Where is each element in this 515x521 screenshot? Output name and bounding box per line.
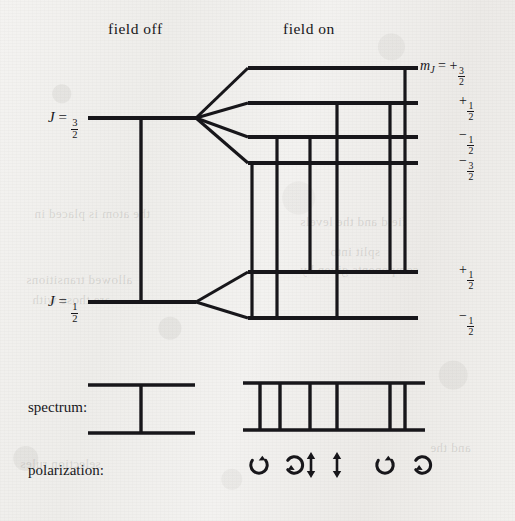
- fan-line-lower-0: [196, 272, 248, 302]
- row-label-polarization: polarization:: [28, 462, 104, 479]
- circular-arrow-icon: [251, 460, 267, 473]
- level-label-J-upper: J = 32: [48, 109, 79, 140]
- header-field-on: field on: [283, 20, 335, 38]
- arrow-head-down-icon: [307, 471, 315, 478]
- polarization-pi-1: [307, 452, 315, 478]
- splitting-fan-lines-group: [196, 68, 248, 318]
- header-field-off: field off: [108, 20, 163, 38]
- mj-label-minus-1-2-lower: −12: [459, 308, 475, 336]
- polarization-symbols-group: [251, 452, 431, 478]
- fan-line-upper-2: [196, 118, 248, 137]
- mj-label-minus-3-2: −32: [459, 153, 475, 181]
- arrow-head-up-icon: [333, 452, 341, 459]
- polarization-sigma-left-1: [251, 456, 267, 473]
- row-label-spectrum: spectrum:: [28, 399, 87, 416]
- fan-line-lower-1: [196, 302, 248, 318]
- polarization-sigma-right-1: [377, 456, 393, 473]
- polarization-sigma-left-2: [288, 457, 303, 473]
- mj-label-plus-1-2-lower: +12: [459, 262, 475, 290]
- polarization-pi-2: [333, 452, 341, 478]
- arrow-head-icon: [416, 465, 423, 470]
- spectrum-group: [88, 383, 425, 433]
- arrow-head-icon: [288, 465, 295, 470]
- fan-line-upper-3: [196, 118, 248, 163]
- mj-label-plus-3-2: mJ = +32: [420, 58, 465, 86]
- arrow-head-down-icon: [333, 471, 341, 478]
- arrow-head-up-icon: [307, 452, 315, 459]
- circular-arrow-icon: [377, 460, 393, 473]
- arrow-head-icon: [259, 456, 266, 461]
- circular-arrow-icon: [288, 457, 303, 473]
- transition-lines-group: [141, 68, 405, 318]
- mj-label-plus-1-2-upper: +12: [459, 93, 475, 121]
- polarization-sigma-right-2: [416, 457, 431, 473]
- circular-arrow-icon: [416, 457, 431, 473]
- arrow-head-icon: [385, 456, 392, 461]
- level-label-J-lower: J = 12: [48, 293, 79, 324]
- mj-label-minus-1-2-upper: −12: [459, 127, 475, 155]
- zeeman-diagram: field off field on J = 32 J = 12 mJ = +3…: [0, 0, 515, 521]
